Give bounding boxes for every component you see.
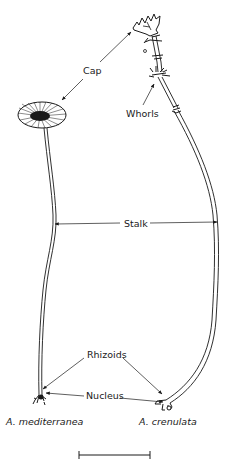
crenulata-whorls <box>149 36 181 113</box>
crenulata-nucleus <box>167 406 171 410</box>
mediterranea-stalk <box>39 128 56 395</box>
stalk-annotation: Stalk <box>55 218 217 229</box>
nucleus-annotation: Nucleus <box>46 390 163 402</box>
mediterranea-rhizoids <box>33 395 46 406</box>
a-crenulata-organism <box>133 14 219 410</box>
mediterranea-nucleus <box>39 395 44 400</box>
stalk-label: Stalk <box>124 218 148 229</box>
mediterranea-cap <box>18 102 66 128</box>
a-mediterranea-organism <box>18 102 66 405</box>
acetabularia-diagram: Cap Whorls Stalk Rhizoids Nucleus A. med… <box>0 0 231 464</box>
species-label-right: A. crenulata <box>138 416 197 427</box>
cap-label: Cap <box>83 65 102 76</box>
species-label-left: A. mediterranea <box>5 416 84 427</box>
rhizoids-label: Rhizoids <box>87 349 127 360</box>
rhizoids-annotation: Rhizoids <box>43 349 162 394</box>
scale-bar <box>79 451 150 459</box>
crenulata-stalk <box>166 110 219 403</box>
cap-annotation: Cap <box>62 32 131 100</box>
whorls-annotation: Whorls <box>126 84 159 119</box>
nucleus-label: Nucleus <box>86 390 124 401</box>
whorls-label: Whorls <box>126 108 159 119</box>
